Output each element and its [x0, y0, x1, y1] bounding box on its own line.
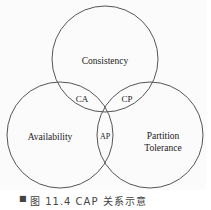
availability-label: Availability [28, 132, 73, 142]
partition-label-line1: Partition [147, 131, 180, 141]
ap-label: AP [100, 132, 111, 141]
partition-label-line2: Tolerance [144, 143, 181, 153]
caption-text: 图 11.4 CAP 关系示意 [30, 194, 147, 208]
cp-label: CP [121, 94, 132, 104]
consistency-label: Consistency [82, 56, 129, 66]
cap-venn-diagram: Consistency Availability Partition Toler… [0, 0, 211, 210]
ca-label: CA [76, 94, 89, 104]
caption-bullet-icon: ■ [19, 194, 27, 203]
figure-caption: ■ 图 11.4 CAP 关系示意 [0, 194, 211, 210]
